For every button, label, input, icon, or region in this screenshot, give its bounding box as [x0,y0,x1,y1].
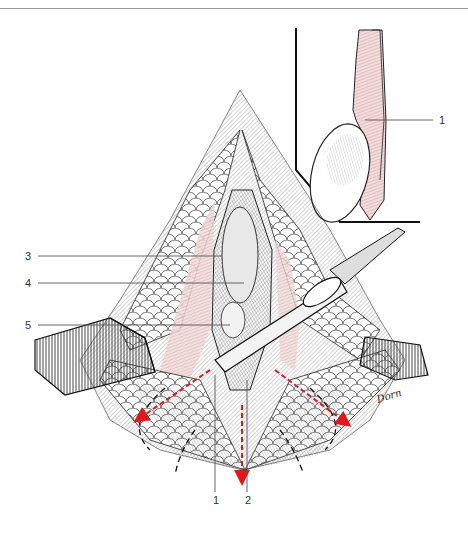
label-1-bottom: 1 [213,494,219,506]
label-3: 3 [25,250,31,262]
label-2-bottom: 2 [245,494,251,506]
illustration: Dorn 3 4 5 1 2 1 [0,0,468,542]
inset-drawing [301,30,386,228]
label-5: 5 [25,319,31,331]
label-4: 4 [25,277,31,289]
label-1-inset: 1 [439,114,445,126]
